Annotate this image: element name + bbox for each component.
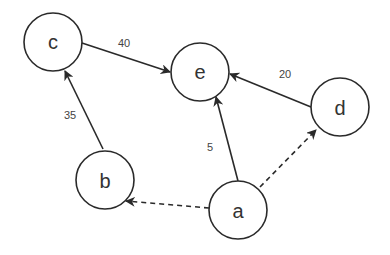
- node-e-label: e: [194, 61, 205, 84]
- edge-a-b: [126, 201, 209, 208]
- edge-b-c-weight: 35: [64, 109, 76, 121]
- edge-d-e: [230, 74, 311, 107]
- edge-a-e: [216, 97, 238, 181]
- edge-a-d: [260, 130, 316, 187]
- node-d-label: d: [334, 97, 345, 120]
- graph-diagram: c e d b a 40 20 35 5: [0, 0, 390, 255]
- graph-svg: [0, 0, 390, 255]
- edge-c-e-weight: 40: [118, 37, 130, 49]
- edge-a-e-weight: 5: [207, 141, 213, 153]
- edge-d-e-weight: 20: [279, 68, 291, 80]
- node-c-label: c: [48, 31, 58, 54]
- node-a-label: a: [232, 200, 243, 223]
- node-b-label: b: [99, 170, 110, 193]
